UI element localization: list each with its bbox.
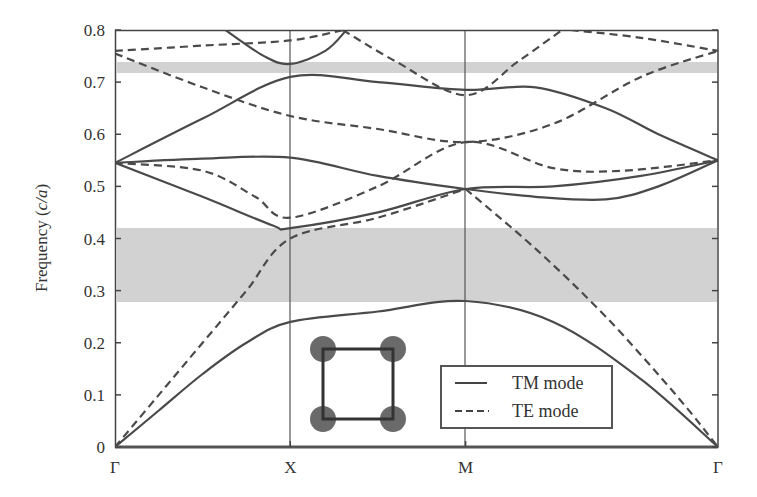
y-tick-label: 0.7: [84, 73, 106, 92]
lattice-inset: [310, 336, 406, 432]
band-structure-chart: 00.10.20.30.40.50.60.70.8 ΓXMΓ Frequency…: [0, 0, 757, 497]
legend-te-label: TE mode: [512, 401, 578, 421]
x-tick-label: Γ: [713, 458, 723, 477]
x-tick-label: M: [458, 458, 473, 477]
y-tick-label: 0.6: [84, 125, 105, 144]
te-band-curve: [571, 30, 718, 51]
y-tick-label: 0.2: [84, 334, 105, 353]
unit-cell: [323, 349, 393, 419]
x-tick-label: Γ: [110, 458, 120, 477]
y-tick-label: 0.4: [84, 230, 106, 249]
y-tick-label: 0.3: [84, 282, 105, 301]
y-tick-label: 0.1: [84, 386, 105, 405]
tm-band-curve: [225, 30, 346, 64]
legend: TM mode TE mode: [441, 366, 612, 428]
band-gap-lower: [117, 228, 717, 302]
band-gap-upper: [117, 62, 717, 73]
legend-tm-label: TM mode: [512, 373, 584, 393]
y-axis-title: Frequency (c/a): [32, 184, 51, 292]
x-tick-label: X: [284, 458, 296, 477]
tm-band-curve: [115, 301, 718, 447]
y-tick-label: 0.8: [84, 21, 105, 40]
y-tick-label: 0.5: [84, 177, 105, 196]
y-tick-label: 0: [97, 438, 106, 457]
